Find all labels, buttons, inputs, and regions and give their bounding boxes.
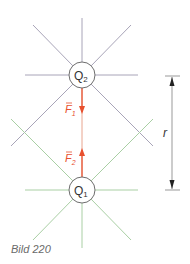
q1-field-line-down-right	[91, 199, 131, 240]
force-f1-label: F1	[65, 103, 76, 117]
force-f2-label: F2	[65, 152, 76, 166]
figure-caption: Bild 220	[11, 243, 51, 255]
charge-q2: Q2	[69, 62, 95, 88]
force-f2: F2	[65, 148, 85, 177]
q1-field-line-up-right	[91, 119, 153, 181]
q1-field-line-down-left	[33, 199, 73, 240]
q2-field-line-down-right	[91, 84, 153, 146]
q1-field-line-up-left	[11, 119, 73, 181]
arrow-down-icon	[170, 180, 175, 189]
coulomb-force-diagram: F1 F2 Q2 Q1 r	[0, 0, 190, 264]
distance-dimension: r	[163, 76, 180, 190]
q2-field-line-up-left	[33, 25, 73, 66]
distance-label: r	[163, 126, 168, 140]
arrow-up-icon	[79, 148, 85, 156]
q2-field-line-down-left	[11, 84, 73, 146]
force-f1: F1	[65, 88, 85, 117]
arrow-up-icon	[170, 77, 175, 86]
q2-field-line-up-right	[91, 25, 131, 66]
charge-q1: Q1	[69, 177, 95, 203]
arrow-down-icon	[79, 106, 85, 114]
